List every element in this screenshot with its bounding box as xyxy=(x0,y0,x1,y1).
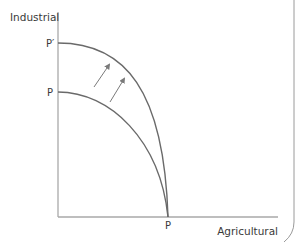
inner-frontier-y-label: P xyxy=(47,87,53,98)
outer-frontier-y-label: P′ xyxy=(46,38,55,49)
x-axis-label: Agricultural xyxy=(217,225,278,237)
outer-frontier-curve xyxy=(58,43,168,217)
panel-border xyxy=(284,0,294,242)
shift-arrow-2 xyxy=(110,79,124,102)
shift-arrow-1 xyxy=(94,65,109,87)
x-intercept-label: P xyxy=(165,220,171,231)
ppf-diagram: Industrial Agricultural P′ P P xyxy=(0,0,299,244)
y-axis-label: Industrial xyxy=(10,11,59,23)
